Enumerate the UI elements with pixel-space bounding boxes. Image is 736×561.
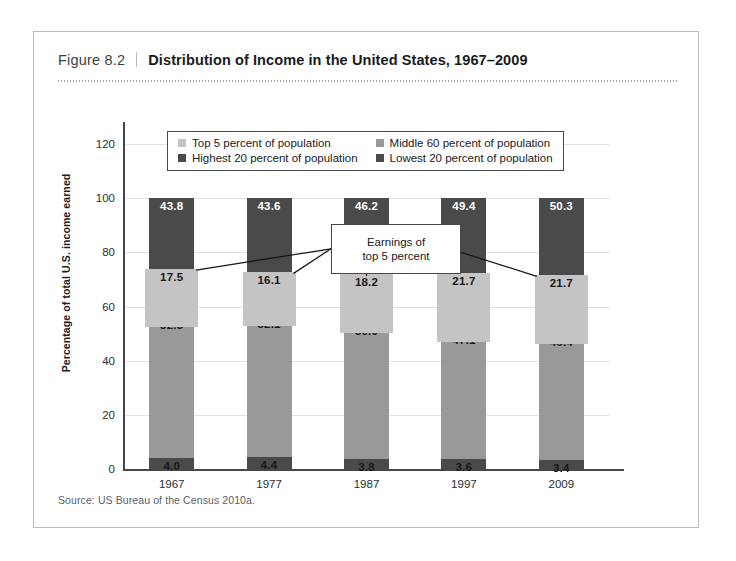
legend-swatch xyxy=(178,139,186,147)
bar-value-label: 46.4 xyxy=(550,334,573,460)
bar-segment-middle-60: 52.3 xyxy=(149,317,194,459)
bar-segment-lowest-20: 4.0 xyxy=(149,458,194,469)
chart-plot-area: Percentage of total U.S. income earned 1… xyxy=(34,32,700,529)
y-axis-line xyxy=(123,122,125,469)
source-note: Source: US Bureau of the Census 2010a. xyxy=(58,494,255,506)
bar-value-label: 47.1 xyxy=(452,332,475,460)
legend-swatch xyxy=(178,154,186,162)
legend-label: Top 5 percent of population xyxy=(192,137,331,149)
figure-card: Figure 8.2 Distribution of Income in the… xyxy=(33,31,699,528)
bar-value-label: 52.3 xyxy=(160,317,183,459)
bar-segment-top-5: 21.7 xyxy=(535,275,588,344)
bar-segment-middle-60: 52.1 xyxy=(247,316,292,457)
bar-value-label: 18.2 xyxy=(355,274,378,333)
bar-value-label: 3.8 xyxy=(358,459,375,469)
legend-label: Middle 60 percent of population xyxy=(390,137,550,149)
legend-label: Highest 20 percent of population xyxy=(192,152,358,164)
x-axis-tick: 1987 xyxy=(354,478,380,490)
bar-segment-lowest-20: 3.8 xyxy=(344,459,389,469)
bar-value-label: 21.7 xyxy=(550,275,573,344)
bar-segment-lowest-20: 3.4 xyxy=(539,460,584,469)
bar-value-label: 4.4 xyxy=(261,457,278,469)
y-axis-tick: 0 xyxy=(81,463,115,475)
bar-value-label: 52.1 xyxy=(258,316,281,457)
y-axis-tick: 80 xyxy=(81,246,115,258)
bar-value-label: 17.5 xyxy=(160,269,183,326)
bar-segment-middle-60: 50.0 xyxy=(344,323,389,458)
x-axis-tick: 1967 xyxy=(159,478,185,490)
legend-item: Lowest 20 percent of population xyxy=(376,152,553,164)
y-axis-tick: 40 xyxy=(81,355,115,367)
callout-line-2: top 5 percent xyxy=(362,249,429,263)
bar-value-label: 3.6 xyxy=(456,459,473,469)
bar-value-label: 21.7 xyxy=(452,273,475,342)
legend-item: Highest 20 percent of population xyxy=(178,152,358,164)
bar-segment-top-5: 16.1 xyxy=(243,272,296,326)
bar-segment-lowest-20: 3.6 xyxy=(441,459,486,469)
bar-value-label: 4.0 xyxy=(163,458,180,469)
legend-label: Lowest 20 percent of population xyxy=(390,152,553,164)
x-axis-tick: 2009 xyxy=(549,478,575,490)
bar-segment-top-5: 17.5 xyxy=(145,269,198,326)
x-axis-tick: 1977 xyxy=(256,478,282,490)
y-axis-tick: 20 xyxy=(81,409,115,421)
bar-segment-lowest-20: 4.4 xyxy=(247,457,292,469)
x-axis-tick: 1997 xyxy=(451,478,477,490)
bar-segment-middle-60: 46.4 xyxy=(539,334,584,460)
legend-item: Middle 60 percent of population xyxy=(376,137,553,149)
bar-segment-middle-60: 47.1 xyxy=(441,332,486,460)
y-axis-label: Percentage of total U.S. income earned xyxy=(60,143,72,403)
callout-box: Earnings of top 5 percent xyxy=(331,224,461,274)
y-axis-tick: 60 xyxy=(81,301,115,313)
bar-value-label: 3.4 xyxy=(553,460,570,469)
y-axis-tick: 120 xyxy=(81,138,115,150)
legend-grid: Top 5 percent of populationMiddle 60 per… xyxy=(178,137,553,164)
y-axis-tick: 100 xyxy=(81,192,115,204)
bar-value-label: 16.1 xyxy=(258,272,281,326)
legend-swatch xyxy=(376,139,384,147)
bar-segment-top-5: 18.2 xyxy=(340,274,393,333)
legend-item: Top 5 percent of population xyxy=(178,137,358,149)
bar-value-label: 50.0 xyxy=(355,323,378,458)
callout-line-1: Earnings of xyxy=(367,235,425,249)
chart-legend: Top 5 percent of populationMiddle 60 per… xyxy=(167,131,564,171)
legend-swatch xyxy=(376,154,384,162)
bar-segment-top-5: 21.7 xyxy=(437,273,490,342)
